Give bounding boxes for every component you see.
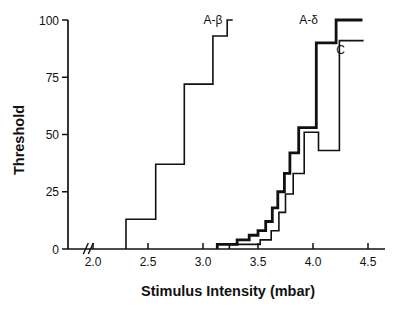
series-label-C: C	[336, 43, 345, 57]
x-tick-label: 3.5	[250, 255, 267, 269]
series-line-C	[229, 41, 363, 249]
threshold-vs-stimulus-intensity-chart: 0255075100 2.02.53.03.54.04.5 A-βA-δC St…	[0, 0, 399, 309]
x-axis-title: Stimulus Intensity (mbar)	[141, 283, 315, 299]
x-tick-label: 3.0	[195, 255, 212, 269]
x-tick-label: 4.5	[360, 255, 377, 269]
x-tick-label: 2.5	[140, 255, 157, 269]
series-line-A-beta	[126, 20, 233, 249]
x-axis-tick-labels: 2.02.53.03.54.04.5	[85, 255, 377, 269]
series-label-A-delta: A-δ	[299, 13, 318, 27]
x-tick-label: 2.0	[85, 255, 102, 269]
plot-area: 0255075100 2.02.53.03.54.04.5 A-βA-δC	[39, 13, 385, 269]
y-tick-label: 75	[46, 71, 60, 85]
data-series-group	[126, 20, 364, 249]
series-annotation-group: A-βA-δC	[203, 13, 345, 57]
y-tick-label: 100	[39, 14, 59, 28]
y-axis-title: Threshold	[11, 105, 27, 175]
y-axis-ticks	[62, 20, 68, 249]
y-tick-label: 50	[46, 128, 60, 142]
y-axis-tick-labels: 0255075100	[39, 14, 59, 257]
x-tick-label: 4.0	[305, 255, 322, 269]
y-tick-label: 25	[46, 185, 60, 199]
series-label-A-beta: A-β	[203, 13, 222, 27]
y-tick-label: 0	[52, 243, 59, 257]
